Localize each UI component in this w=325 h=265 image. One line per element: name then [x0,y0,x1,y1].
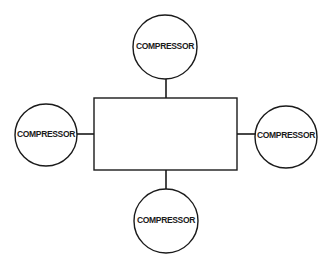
compressor-node-right: COMPRESSOR [255,106,317,168]
compressor-node-top: COMPRESSOR [133,15,197,79]
compressor-label: COMPRESSOR [17,129,76,139]
central-block [94,98,237,170]
compressor-node-left: COMPRESSOR [15,104,77,166]
compressor-diagram: COMPRESSOR COMPRESSOR COMPRESSOR COMPRES… [0,0,325,265]
compressor-label: COMPRESSOR [137,215,196,225]
compressor-node-bottom: COMPRESSOR [134,189,198,253]
compressor-label: COMPRESSOR [257,130,316,140]
compressor-label: COMPRESSOR [136,41,195,51]
